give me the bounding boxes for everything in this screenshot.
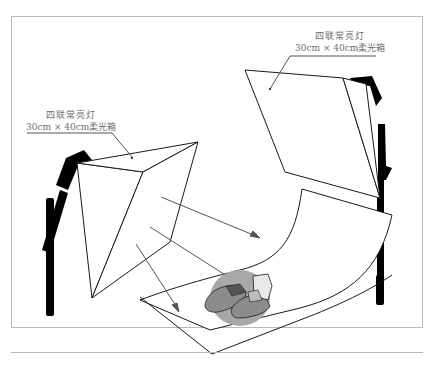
bottom-divider bbox=[11, 352, 423, 353]
left-light-label-name: 四联常亮灯 bbox=[26, 109, 116, 121]
right-light-label-size: 30cm × 40cm柔光箱 bbox=[295, 42, 385, 54]
left-light-label: 四联常亮灯 30cm × 40cm柔光箱 bbox=[26, 109, 116, 133]
lighting-setup-illustration bbox=[0, 0, 432, 378]
left-light-stand bbox=[42, 0, 92, 316]
left-light-label-size: 30cm × 40cm柔光箱 bbox=[26, 121, 116, 133]
right-light-label: 四联常亮灯 30cm × 40cm柔光箱 bbox=[295, 30, 385, 54]
right-light-label-name: 四联常亮灯 bbox=[295, 30, 385, 42]
